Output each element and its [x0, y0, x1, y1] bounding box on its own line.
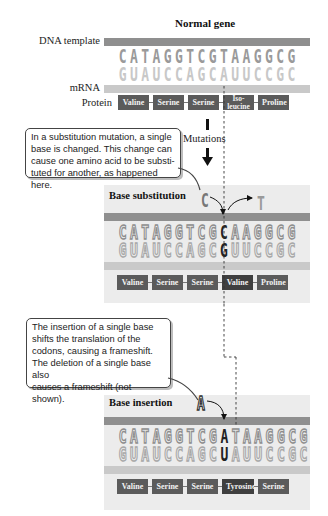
insert-arrow-icon: [210, 197, 223, 214]
remove-arrow-icon: [228, 198, 252, 210]
insert-arrow-icon: [207, 401, 224, 419]
callout-tail: [178, 168, 200, 190]
mutations-arrow-icon: [202, 119, 213, 166]
diagram-overlay: [0, 0, 328, 516]
reading-frame-dashed-line: [224, 86, 236, 425]
callout-tail: [168, 378, 198, 400]
